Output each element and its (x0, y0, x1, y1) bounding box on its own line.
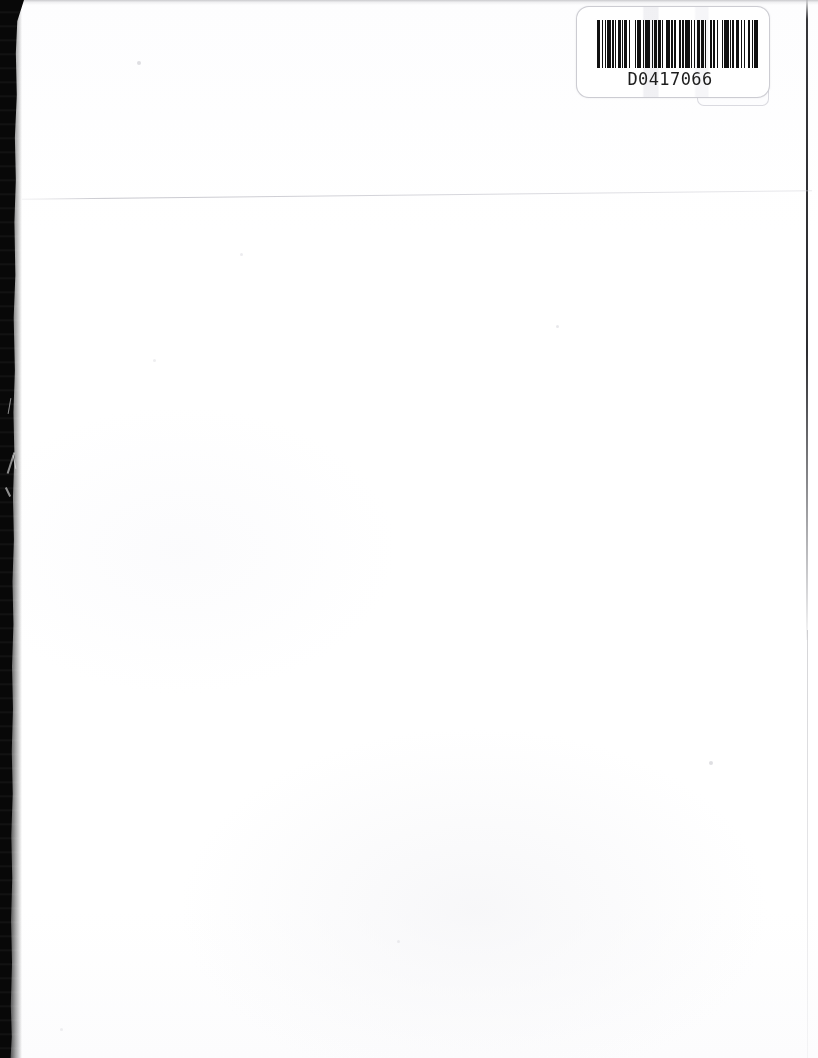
scanned-page: D0417066 (0, 0, 818, 1058)
scanner-edge-streaks (0, 0, 22, 1058)
dust-speck (709, 761, 713, 765)
page-edge-line (806, 0, 808, 640)
dust-speck (137, 61, 141, 65)
dust-speck (60, 1028, 63, 1031)
barcode-code39 (597, 20, 749, 68)
dust-speck (556, 325, 559, 328)
paper-surface (0, 0, 818, 1058)
barcode-number-text: D0417066 (577, 69, 769, 89)
dust-speck (153, 359, 156, 362)
barcode-label: D0417066 (576, 6, 770, 98)
page-edge-line-faint (807, 630, 808, 1058)
top-edge-shading (0, 0, 818, 5)
barcode-label-inner: D0417066 (577, 7, 769, 97)
dust-speck (397, 940, 400, 943)
dust-speck (240, 253, 243, 256)
page-fold-line (22, 190, 812, 204)
